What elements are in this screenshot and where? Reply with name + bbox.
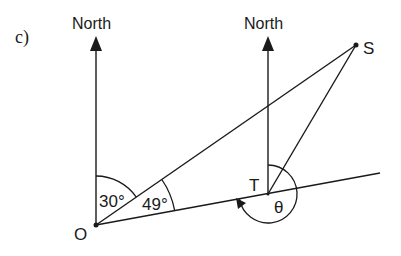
angle-label-49: 49° bbox=[142, 195, 168, 214]
label-o: O bbox=[74, 225, 87, 244]
point-s bbox=[354, 43, 359, 48]
point-o bbox=[94, 223, 99, 228]
part-label: c) bbox=[15, 27, 29, 48]
north-arrow-t bbox=[262, 36, 274, 194]
label-s: S bbox=[363, 39, 374, 58]
angle-label-theta: θ bbox=[274, 198, 283, 217]
point-t bbox=[267, 193, 270, 196]
north-label-t: North bbox=[244, 15, 283, 32]
line-os bbox=[96, 45, 356, 225]
arrowhead-icon bbox=[262, 36, 274, 51]
arrowhead-icon bbox=[90, 36, 102, 51]
angle-label-30: 30° bbox=[99, 192, 125, 211]
line-ts bbox=[268, 45, 356, 194]
arc-arrowhead-icon bbox=[236, 198, 246, 209]
bearing-diagram: c) North North 30° 49° θ O T S bbox=[0, 0, 401, 256]
label-t: T bbox=[249, 176, 259, 195]
north-label-o: North bbox=[72, 15, 111, 32]
